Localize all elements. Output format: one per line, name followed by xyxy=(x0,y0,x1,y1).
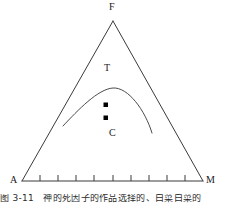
figure-container: F A M T C 图 3-11 神的死因子的作品选择的、白菜白菜的 xyxy=(0,0,225,203)
vertex-label-m: M xyxy=(206,175,215,185)
vertex-label-f: F xyxy=(109,2,115,12)
figure-caption-text: 图 3-11 神的死因子的作品选择的、白菜白菜的 xyxy=(0,194,225,203)
data-point-marker xyxy=(104,116,109,121)
region-boundary-curve xyxy=(63,88,152,133)
vertex-label-a: A xyxy=(10,175,17,185)
triangle-left-edge xyxy=(22,21,113,181)
data-point-marker xyxy=(104,103,109,108)
region-label-c: C xyxy=(109,128,116,138)
figure-caption: 图 3-11 神的死因子的作品选择的、白菜白菜的 xyxy=(0,194,225,203)
triangle-right-edge xyxy=(113,21,203,181)
axis-tick-group xyxy=(40,175,185,181)
region-label-t: T xyxy=(104,63,110,73)
ternary-diagram-svg xyxy=(0,0,225,203)
